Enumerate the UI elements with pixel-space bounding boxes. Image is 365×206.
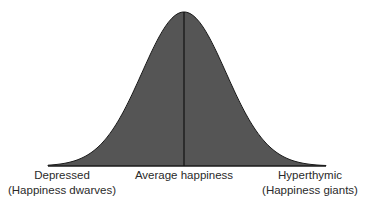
label-depressed: Depressed (Happiness dwarves) — [2, 168, 122, 198]
label-hyperthymic-title: Hyperthymic — [255, 168, 365, 183]
label-average: Average happiness — [124, 168, 244, 183]
bell-curve-area — [48, 12, 326, 166]
label-depressed-subtitle: (Happiness dwarves) — [2, 183, 122, 198]
label-average-title: Average happiness — [124, 168, 244, 183]
label-depressed-title: Depressed — [2, 168, 122, 183]
label-hyperthymic-subtitle: (Happiness giants) — [255, 183, 365, 198]
label-hyperthymic: Hyperthymic (Happiness giants) — [255, 168, 365, 198]
